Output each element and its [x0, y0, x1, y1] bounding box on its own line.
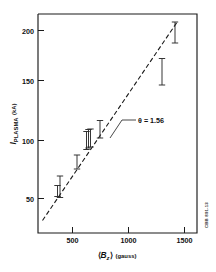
- x-tick-label-1000: 1000: [121, 236, 137, 245]
- y-tick-label-150: 150: [22, 77, 34, 86]
- y-axis-subscript: PLASMA: [13, 117, 19, 143]
- y-tick-label-100: 100: [22, 137, 34, 146]
- data-point-errorbar: [159, 59, 165, 86]
- figure-id-code: CBB 891-13: [204, 202, 209, 228]
- y-tick-label-200: 200: [22, 27, 34, 36]
- y-axis-units: (kA): [11, 103, 17, 114]
- plot-canvas: 200 150 100 50 500 1000 1500: [0, 0, 216, 272]
- y-axis-title: IPLASMA(kA): [8, 103, 19, 144]
- data-point-errorbar: [172, 22, 178, 43]
- x-tick-label-1500: 1500: [177, 236, 193, 245]
- y-tick-label-50: 50: [26, 195, 34, 204]
- x-axis-title: ⟨Bz⟩(gauss): [98, 250, 137, 261]
- theta-leader-line: [110, 120, 136, 138]
- x-axis-ticks: [73, 227, 185, 233]
- x-axis-bracket-close: ⟩: [110, 250, 113, 260]
- figure-panel: 200 150 100 50 500 1000 1500: [0, 0, 216, 272]
- axis-frame: [38, 14, 197, 233]
- x-tick-label-500: 500: [67, 236, 79, 245]
- data-point-errorbar: [97, 121, 103, 139]
- y-axis-ticks: [38, 31, 44, 199]
- x-axis-units: (gauss): [116, 253, 137, 259]
- theta-annotation-label: θ = 1.56: [138, 116, 164, 125]
